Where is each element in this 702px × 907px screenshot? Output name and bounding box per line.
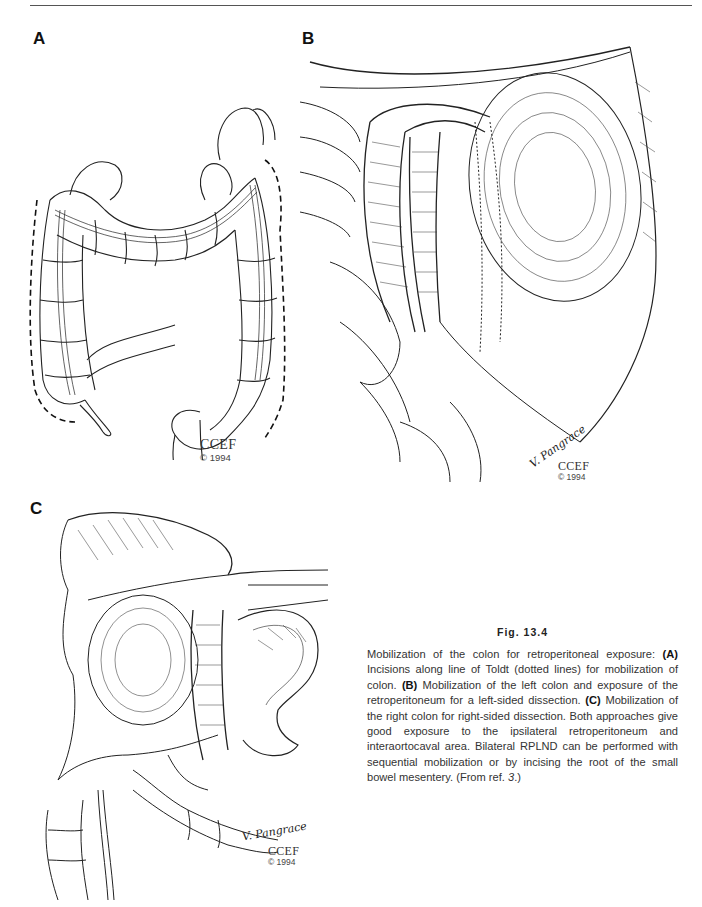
credit-org: CCEF [558, 460, 589, 473]
caption-body: Mobilization of the colon for retroperit… [367, 647, 678, 786]
left-colon-mobilization-icon [300, 22, 695, 482]
panel-label-a: A [33, 30, 45, 47]
caption-segment: .) [514, 771, 521, 783]
header-rule [30, 5, 692, 6]
credit-year: © 1994 [558, 473, 589, 482]
credit-org: CCEF [268, 845, 299, 858]
panel-b-illustration: V. Pangrace CCEF © 1994 [300, 22, 695, 482]
caption-segment: Mobilization of the right colon for righ… [367, 694, 678, 783]
caption-panel-ref-a: (A) [663, 648, 678, 660]
credit-org: CCEF [200, 438, 236, 453]
caption-panel-ref-c: (C) [585, 694, 600, 706]
panel-c-illustration: V. Pangrace CCEF © 1994 [28, 500, 348, 905]
panel-a-credit: CCEF © 1994 [200, 438, 236, 463]
credit-year: © 1994 [268, 858, 299, 867]
caption-panel-ref-b: (B) [402, 679, 417, 691]
figure-caption: Fig. 13.4 Mobilization of the colon for … [367, 626, 678, 786]
panel-c-credit: CCEF © 1994 [268, 845, 299, 867]
panel-a-illustration: CCEF © 1994 [25, 60, 295, 460]
colon-diagram-icon [25, 60, 295, 460]
right-colon-mobilization-icon [28, 500, 348, 905]
figure-number: Fig. 13.4 [367, 626, 678, 638]
panel-b-credit: CCEF © 1994 [558, 460, 589, 482]
credit-year: © 1994 [200, 453, 236, 463]
caption-segment: Mobilization of the colon for retroperit… [367, 648, 663, 660]
